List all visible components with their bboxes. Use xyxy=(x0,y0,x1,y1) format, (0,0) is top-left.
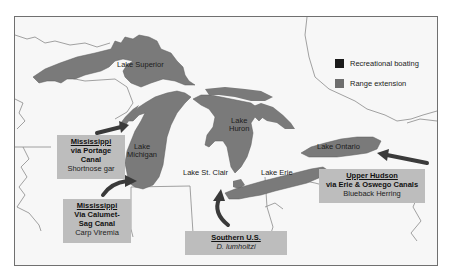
legend-item-recreational-boating: Recreational boating xyxy=(335,53,419,73)
callout-via: Via Calumet- xyxy=(66,210,128,219)
callout-source: Mississippi xyxy=(60,137,122,146)
range-extension-swatch xyxy=(335,79,344,88)
callout-source: Upper Hudson xyxy=(322,171,422,180)
label-lake-michigan: Lake Michigan xyxy=(127,143,157,159)
callout-species: Carp Viremia xyxy=(66,228,128,237)
arrow-portage xyxy=(97,127,121,133)
label-lake-superior: Lake Superior xyxy=(117,61,164,69)
callout-via: Canal xyxy=(60,155,122,164)
lake-michigan xyxy=(125,91,191,189)
label-lake-michigan-line2: Michigan xyxy=(127,151,157,159)
arrow-hudson xyxy=(387,155,427,163)
legend-item-range-extension: Range extension xyxy=(335,73,419,93)
callout-mississippi-portage: Mississippi via Portage Canal Shortnose … xyxy=(57,135,125,179)
callout-source: Southern U.S. xyxy=(188,233,284,242)
callout-upper-hudson: Upper Hudson via Erie & Oswego Canals Bl… xyxy=(319,169,425,203)
arrow-southern xyxy=(217,199,228,225)
label-lake-huron-line2: Huron xyxy=(229,125,249,133)
callout-source: Mississippi xyxy=(66,201,128,210)
callout-species: Shortnose gar xyxy=(60,164,122,173)
callout-via: via Portage xyxy=(60,146,122,155)
arrow-southern-head xyxy=(213,189,225,201)
arrow-hudson-head xyxy=(377,149,389,161)
label-lake-ontario: Lake Ontario xyxy=(317,143,360,151)
arrow-calumet xyxy=(103,181,127,195)
callout-via: via Erie & Oswego Canals xyxy=(322,180,422,189)
label-lake-erie: Lake Erie xyxy=(261,169,293,177)
map-frame: Lake Superior Lake Michigan Lake Huron L… xyxy=(14,16,438,266)
legend-label: Range extension xyxy=(350,79,406,88)
callout-mississippi-calumet: Mississippi Via Calumet- Sag Canal Carp … xyxy=(63,199,131,243)
label-lake-st-clair: Lake St. Clair xyxy=(183,169,228,177)
callout-species: Blueback Herring xyxy=(322,189,422,198)
legend: Recreational boating Range extension xyxy=(335,53,419,93)
callout-southern-us: Southern U.S. D. lumholtzi xyxy=(185,231,287,255)
legend-label: Recreational boating xyxy=(350,59,419,68)
recreational-boating-swatch xyxy=(335,59,344,68)
callout-via: Sag Canal xyxy=(66,219,128,228)
label-lake-huron: Lake Huron xyxy=(229,117,249,133)
callout-species: D. lumholtzi xyxy=(188,242,284,251)
